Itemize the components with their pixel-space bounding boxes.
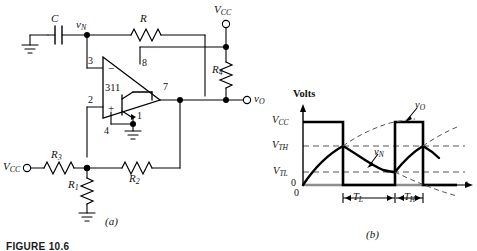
interval-label-TH: TH — [404, 191, 415, 204]
pin-label-1: 1 — [137, 110, 142, 121]
TL-arrow-right — [387, 195, 393, 201]
pin-label-7: 7 — [163, 81, 168, 92]
label-resistor-R: R — [140, 12, 147, 24]
chart-xlabel: t — [465, 178, 468, 189]
label-supply-top-base: V — [214, 3, 221, 15]
label-node-vN: vN — [76, 18, 86, 32]
TL-arrow-left — [345, 195, 351, 201]
label-capacitor-C: C — [51, 12, 58, 24]
interval-label-TL: TL — [353, 191, 363, 204]
label-supply-left-sub: CC — [10, 165, 21, 174]
pin-label-2: 2 — [88, 94, 93, 105]
label-node-vN-sub: N — [81, 23, 86, 32]
terminal-VCC-top — [222, 20, 229, 27]
ytick-VCC-sub: CC — [278, 118, 288, 127]
TH-arrow-right — [415, 195, 421, 201]
ytick-VCC: VCC — [272, 114, 289, 127]
interval-TH-sub: H — [410, 195, 415, 204]
panel-b-letter: (b) — [366, 228, 379, 240]
resistor-R2-zigzag — [44, 162, 74, 174]
label-R3-sub: 2 — [136, 177, 140, 186]
waveform-chart-panel-b — [265, 78, 475, 238]
resistor-R1-zigzag — [81, 178, 93, 204]
inverting-input-sign: − — [108, 62, 114, 74]
ground-symbol-mid — [125, 131, 141, 139]
label-R2-sub: 3 — [58, 153, 62, 162]
resistor-R-zigzag — [131, 29, 161, 41]
interval-TL-sub: L — [359, 195, 363, 204]
label-resistor-R3: R2 — [129, 172, 140, 186]
pin-label-4: 4 — [104, 125, 109, 136]
ground-symbol-bottom — [79, 213, 95, 221]
panel-a-letter: (a) — [105, 215, 118, 227]
pin-label-3: 3 — [88, 55, 93, 66]
label-supply-left-base: V — [3, 160, 10, 172]
ground-symbol-left — [22, 45, 38, 53]
ytick-VTH: VTH — [272, 139, 288, 152]
label-ic-311: 311 — [105, 82, 120, 93]
terminal-VCC-left — [23, 164, 30, 171]
label-resistor-R1: R1 — [68, 178, 79, 192]
capacitor-C — [55, 26, 62, 44]
y-axis-arrow — [300, 104, 306, 112]
terminal-vO — [243, 96, 250, 103]
chart-ylabel: Volts — [293, 88, 315, 99]
xtick-zero: 0 — [294, 187, 299, 198]
label-supply-left: VCC — [3, 160, 20, 174]
label-R4-base: R — [212, 63, 219, 75]
legend-vO: vO — [415, 99, 425, 112]
legend-vO-sub: O — [420, 103, 425, 112]
figure-caption: FIGURE 10.6 — [6, 241, 69, 251]
label-node-vO-sub: O — [259, 97, 265, 106]
label-supply-top-sub: CC — [221, 8, 232, 17]
label-resistor-R2: R3 — [51, 148, 62, 162]
circuit-diagram-panel-a: − + — [0, 0, 270, 235]
label-R2-base: R — [51, 148, 58, 160]
figure-10-6: − + C R vN vO VCC VCC R4 R3 R1 R2 311 3 … — [0, 0, 477, 251]
label-R1-sub: 1 — [75, 183, 79, 192]
label-R3-base: R — [129, 172, 136, 184]
label-node-vO: vO — [254, 92, 265, 106]
label-resistor-R4: R4 — [212, 63, 223, 77]
legend-vN: vN — [374, 146, 384, 159]
ytick-VTH-sub: TH — [278, 143, 288, 152]
pin-label-8: 8 — [142, 57, 147, 68]
label-R1-base: R — [68, 178, 75, 190]
ytick-VTL: VTL — [273, 165, 288, 178]
ytick-VTL-sub: TL — [279, 169, 287, 178]
legend-vN-sub: N — [379, 150, 384, 159]
asymptote-charge-2 — [423, 127, 457, 146]
label-R4-sub: 4 — [219, 68, 223, 77]
label-supply-top: VCC — [214, 3, 231, 17]
noninverting-input-sign: + — [108, 102, 114, 114]
